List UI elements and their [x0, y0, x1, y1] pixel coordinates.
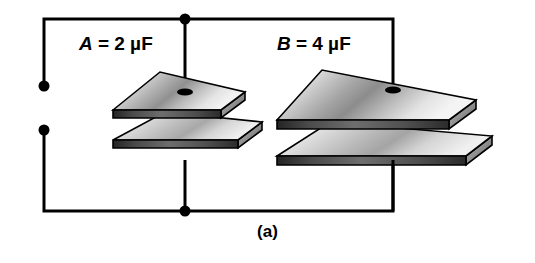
figure-caption: (a) [0, 222, 535, 242]
plate-front-edge [113, 140, 238, 148]
capacitor-a [113, 72, 262, 148]
capacitor-circuit-figure: A=2µF B=4µF (a) [0, 0, 535, 263]
capacitor-a-contact-dot [177, 88, 193, 95]
capacitor-b [277, 70, 492, 165]
plate-top-face [277, 70, 476, 120]
top-junction-dot [180, 14, 191, 25]
capacitor-b-top-plate [277, 70, 476, 129]
top-terminal-dot [39, 81, 50, 92]
capacitor-b-equals: = [296, 33, 307, 54]
capacitor-a-top-plate [113, 72, 245, 118]
capacitor-a-unit: µF [130, 33, 153, 54]
bottom-terminal-dot [39, 125, 50, 136]
capacitor-a-value: 2 [114, 33, 125, 54]
capacitor-b-symbol: B [277, 33, 291, 54]
capacitor-a-symbol: A [79, 33, 93, 54]
capacitor-b-label: B=4µF [277, 33, 351, 55]
wire-bottom-right [185, 163, 393, 211]
capacitor-b-value: 4 [312, 33, 323, 54]
plate-front-edge [277, 156, 466, 165]
capacitor-a-equals: = [98, 33, 109, 54]
capacitor-b-contact-dot [385, 86, 401, 93]
plate-front-edge [113, 110, 221, 118]
capacitor-a-label: A=2µF [79, 33, 153, 55]
plate-front-edge [277, 120, 449, 129]
bottom-junction-dot [180, 206, 191, 217]
capacitor-b-unit: µF [328, 33, 351, 54]
